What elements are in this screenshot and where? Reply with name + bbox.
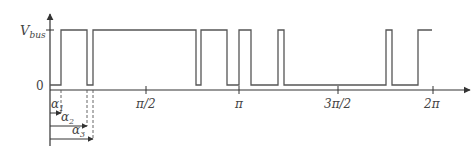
tick-label-3pi-half: 3π/2 (324, 97, 351, 111)
alpha3-label: α3 (72, 123, 85, 139)
tick-label-pi-half: π/2 (135, 97, 156, 111)
tick-label-pi: π (234, 97, 244, 111)
pwm-waveform (50, 30, 432, 85)
tick-label-2pi: 2π (423, 97, 441, 111)
vbus-label: Vbus (20, 23, 46, 40)
pwm-waveform-diagram: Vbus 0 π/2 π 3π/2 2π α1 α2 α3 (0, 0, 473, 154)
zero-label: 0 (36, 79, 44, 93)
